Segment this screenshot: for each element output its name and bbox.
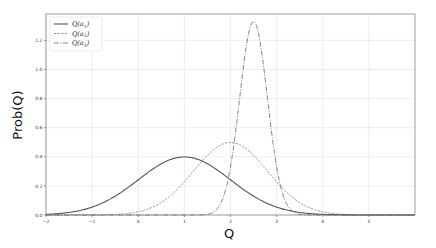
chart: −2−1012345 0.00.20.40.60.81.01.2 Q(a1)Q(… (0, 0, 436, 248)
y-axis-ticks: 0.00.20.40.60.81.01.2 (35, 38, 46, 218)
y-tick-label: 0.2 (35, 184, 42, 189)
y-tick-label: 0.4 (35, 154, 42, 159)
legend-label-3: Q(a3) (72, 39, 90, 48)
legend-label-1: Q(a1) (72, 20, 90, 29)
x-tick-label: −2 (43, 219, 50, 224)
y-tick-label: 0.0 (35, 213, 42, 218)
x-tick-label: 1 (183, 219, 186, 224)
y-tick-label: 0.8 (35, 96, 42, 101)
x-tick-label: 5 (367, 219, 370, 224)
x-tick-label: −1 (89, 219, 96, 224)
legend: Q(a1)Q(a2)Q(a3) (50, 17, 102, 51)
y-tick-label: 1.2 (35, 38, 42, 43)
x-tick-label: 3 (275, 219, 278, 224)
legend-label-2: Q(a2) (72, 30, 90, 39)
y-tick-label: 0.6 (35, 125, 42, 130)
x-axis-ticks: −2−1012345 (43, 215, 371, 224)
y-axis-label: Prob(Q) (10, 90, 25, 139)
x-tick-label: 4 (321, 219, 324, 224)
y-tick-label: 1.0 (35, 67, 42, 72)
x-tick-label: 0 (137, 219, 140, 224)
x-axis-label: Q (224, 226, 234, 241)
x-tick-label: 2 (229, 219, 232, 224)
